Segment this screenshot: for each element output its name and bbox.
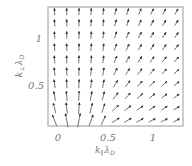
vector-field-chart: 0 0.5 1 1 0.5 k∥λD k⊥λD — [0, 0, 192, 166]
y-tick-0-5: 0.5 — [28, 80, 44, 91]
field-arrow — [79, 91, 80, 101]
field-arrow — [91, 44, 92, 51]
field-arrow — [54, 32, 55, 39]
x-tick-0: 0 — [55, 132, 62, 143]
field-arrow — [67, 79, 68, 88]
x-axis-label: k∥λD — [95, 145, 115, 156]
field-arrow — [91, 32, 92, 39]
y-tick-1: 1 — [36, 33, 42, 44]
y-axis-label: k⊥λD — [14, 54, 25, 77]
field-arrow — [54, 44, 55, 51]
x-tick-0-5: 0.5 — [100, 132, 116, 143]
x-tick-1: 1 — [150, 132, 156, 143]
